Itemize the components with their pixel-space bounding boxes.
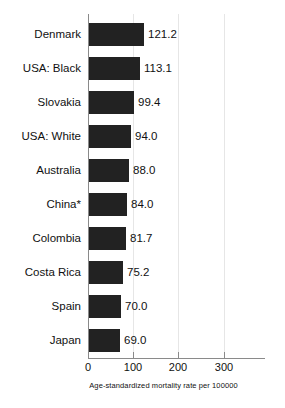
bar-row: China* 84.0 — [0, 193, 285, 216]
category-label: Japan — [50, 329, 81, 352]
x-axis-line — [88, 358, 265, 359]
bar-row: Denmark 121.2 — [0, 23, 285, 46]
bar-value-label: 84.0 — [131, 193, 153, 216]
bar — [89, 329, 120, 352]
category-label: Costa Rica — [25, 261, 81, 284]
bar-row: USA: White 94.0 — [0, 125, 285, 148]
x-tick-label: 300 — [204, 361, 244, 374]
bar — [89, 261, 123, 284]
bar — [89, 23, 144, 46]
bar — [89, 193, 127, 216]
category-label: Slovakia — [38, 91, 81, 114]
bar-row: Australia 88.0 — [0, 159, 285, 182]
tick-mark-300 — [224, 352, 225, 359]
bar — [89, 57, 140, 80]
bar-row: Spain 70.0 — [0, 295, 285, 318]
bar-value-label: 75.2 — [127, 261, 149, 284]
bar-value-label: 69.0 — [124, 329, 146, 352]
bar-value-label: 81.7 — [130, 227, 152, 250]
x-tick-label: 200 — [158, 361, 198, 374]
tick-mark-100 — [133, 352, 134, 359]
bar — [89, 295, 121, 318]
bar-chart: 0 100 200 300 Denmark 121.2 USA: Black 1… — [0, 0, 285, 408]
category-label: USA: Black — [23, 57, 81, 80]
bar-value-label: 121.2 — [148, 23, 177, 46]
category-label: Colombia — [32, 227, 81, 250]
bar-value-label: 94.0 — [135, 125, 157, 148]
category-label: Denmark — [34, 23, 81, 46]
category-label: USA: White — [22, 125, 81, 148]
bar-row: Costa Rica 75.2 — [0, 261, 285, 284]
bar-row: Colombia 81.7 — [0, 227, 285, 250]
plot-area: 0 100 200 300 Denmark 121.2 USA: Black 1… — [0, 0, 285, 408]
x-tick-label: 0 — [68, 361, 108, 374]
x-axis-caption: Age-standardized mortality rate per 1000… — [0, 381, 285, 390]
bar-value-label: 88.0 — [133, 159, 155, 182]
bar-row: Slovakia 99.4 — [0, 91, 285, 114]
x-tick-label: 100 — [113, 361, 153, 374]
bar-value-label: 99.4 — [138, 91, 160, 114]
bar-row: USA: Black 113.1 — [0, 57, 285, 80]
bar-value-label: 113.1 — [144, 57, 172, 80]
tick-mark-200 — [178, 352, 179, 359]
category-label: China* — [46, 193, 81, 216]
bar — [89, 159, 129, 182]
bar — [89, 227, 126, 250]
bar — [89, 125, 131, 148]
bar-value-label: 70.0 — [125, 295, 147, 318]
bar-row: Japan 69.0 — [0, 329, 285, 352]
category-label: Australia — [36, 159, 81, 182]
category-label: Spain — [52, 295, 81, 318]
tick-mark-0 — [88, 352, 89, 359]
bar — [89, 91, 134, 114]
